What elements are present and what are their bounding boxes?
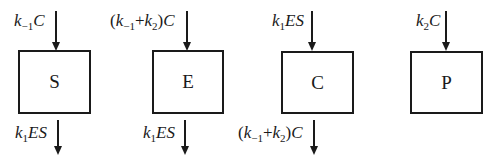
plus-sign: +: [135, 11, 145, 30]
rate-constant: k: [145, 11, 153, 30]
e-inflow-label: (k−1+k2)C: [110, 12, 175, 29]
e-outflow-label: k1ES: [143, 124, 175, 141]
c-inflow-label: k1ES: [272, 12, 304, 29]
species: C: [163, 11, 174, 30]
species: ES: [156, 123, 175, 142]
compartment-c-label: C: [311, 72, 324, 94]
rate-constant: k: [416, 11, 424, 30]
s-inflow-label: k−1C: [14, 12, 45, 29]
species: ES: [285, 11, 304, 30]
p-inflow-label: k2C: [416, 12, 440, 29]
rate-constant: k: [143, 123, 151, 142]
compartment-e: E: [152, 50, 224, 114]
species: ES: [28, 123, 47, 142]
rate-constant: k: [14, 11, 22, 30]
rate-subscript: −1: [251, 132, 263, 144]
rate-constant: k: [272, 11, 280, 30]
compartment-p-label: P: [441, 72, 452, 94]
species: C: [291, 123, 302, 142]
rate-subscript: −1: [22, 20, 34, 32]
rate-constant: k: [273, 123, 281, 142]
rate-subscript: −1: [123, 20, 135, 32]
compartment-s: S: [18, 50, 91, 114]
compartment-s-label: S: [49, 71, 60, 93]
s-outflow-label: k1ES: [15, 124, 47, 141]
species: C: [33, 11, 44, 30]
plus-sign: +: [263, 123, 273, 142]
rate-constant: k: [15, 123, 23, 142]
c-outflow-label: (k−1+k2)C: [238, 124, 303, 141]
species: C: [429, 11, 440, 30]
compartment-e-label: E: [182, 71, 194, 93]
compartment-p: P: [410, 51, 483, 114]
compartment-c: C: [281, 51, 354, 114]
